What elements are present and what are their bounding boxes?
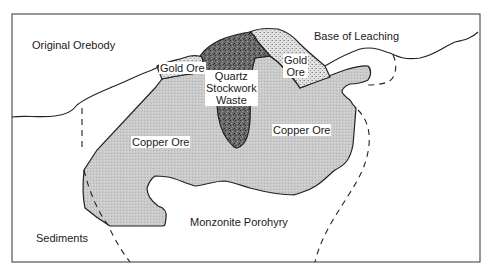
label-monzonite-porphyry: Monzonite Porohyry — [190, 216, 288, 228]
label-gold-ore-left: Gold Ore — [159, 62, 206, 74]
label-base-of-leaching: Base of Leaching — [314, 30, 399, 42]
label-copper-ore-right: Copper Ore — [272, 124, 331, 136]
label-copper-ore-left: Copper Ore — [131, 136, 190, 148]
label-quartz-stockwork-waste: Quartz Stockwork Waste — [205, 70, 258, 106]
label-original-orebody: Original Orebody — [32, 39, 115, 51]
label-gold-ore-right: Gold Ore — [283, 54, 308, 78]
label-sediments: Sediments — [36, 232, 88, 244]
